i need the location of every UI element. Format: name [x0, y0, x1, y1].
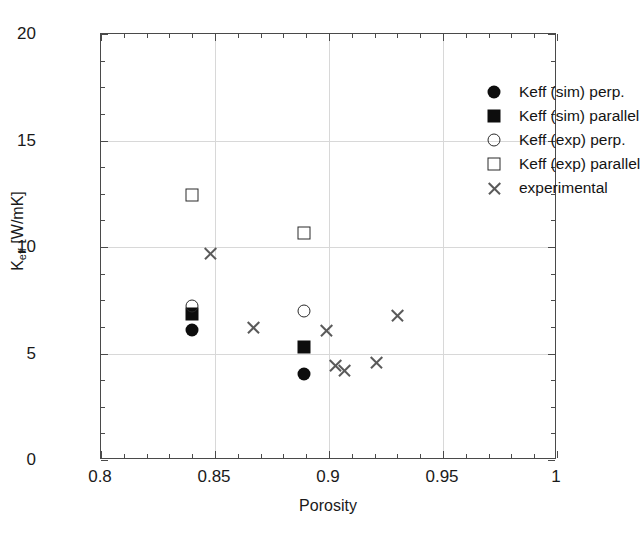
x-tick-major	[101, 451, 102, 458]
data-point-filled-square	[297, 341, 310, 354]
y-axis-title-subscript: eff	[16, 248, 28, 260]
legend-marker-filled-square-icon	[483, 105, 505, 127]
y-tick-minor	[101, 433, 105, 434]
x-tick-minor	[375, 454, 376, 458]
x-tick-major-top	[557, 34, 558, 41]
x-tick-minor	[124, 454, 125, 458]
data-point-cross	[246, 320, 261, 335]
plot-area: Keff (sim) perp.Keff (sim) parallelKeff …	[100, 33, 556, 459]
x-tick-major	[443, 451, 444, 458]
x-tick-minor-top	[466, 34, 467, 38]
x-tick-minor	[466, 454, 467, 458]
data-point-cross	[337, 363, 352, 378]
x-tick-minor	[352, 454, 353, 458]
y-tick-minor-right	[551, 407, 555, 408]
y-tick-minor	[101, 327, 105, 328]
data-point-cross	[319, 323, 334, 338]
y-tick-label: 15	[0, 132, 36, 149]
x-tick-minor	[534, 454, 535, 458]
x-tick-label: 1	[516, 468, 596, 485]
y-tick-major-right	[548, 354, 555, 355]
x-tick-minor-top	[261, 34, 262, 38]
y-tick-minor	[101, 380, 105, 381]
y-tick-major	[101, 34, 108, 35]
y-tick-major	[101, 247, 108, 248]
y-tick-minor	[101, 194, 105, 195]
x-tick-label: 0.8	[60, 468, 140, 485]
y-tick-minor	[101, 61, 105, 62]
x-tick-major	[557, 451, 558, 458]
legend-item: experimental	[483, 176, 644, 200]
x-tick-minor	[489, 454, 490, 458]
x-tick-minor-top	[192, 34, 193, 38]
y-tick-minor	[101, 220, 105, 221]
y-tick-major	[101, 354, 108, 355]
x-tick-minor-top	[397, 34, 398, 38]
x-tick-minor-top	[534, 34, 535, 38]
x-tick-major	[329, 451, 330, 458]
x-tick-minor-top	[489, 34, 490, 38]
gridline-vertical	[443, 34, 444, 458]
x-tick-minor	[306, 454, 307, 458]
data-point-open-square	[297, 227, 310, 240]
y-tick-major	[101, 460, 108, 461]
y-tick-minor-right	[551, 327, 555, 328]
gridline-vertical	[329, 34, 330, 458]
x-tick-minor-top	[420, 34, 421, 38]
x-tick-minor	[238, 454, 239, 458]
x-tick-minor	[147, 454, 148, 458]
y-tick-minor	[101, 114, 105, 115]
data-point-cross	[390, 308, 405, 323]
y-tick-minor-right	[551, 220, 555, 221]
x-tick-minor-top	[511, 34, 512, 38]
y-tick-minor	[101, 87, 105, 88]
data-point-open-circle	[297, 304, 310, 317]
y-tick-label: 5	[0, 345, 36, 362]
y-tick-minor	[101, 274, 105, 275]
data-point-filled-circle	[186, 324, 199, 337]
x-tick-label: 0.95	[402, 468, 482, 485]
y-tick-minor-right	[551, 300, 555, 301]
y-tick-label: 0	[0, 451, 36, 468]
data-point-open-square	[186, 188, 199, 201]
y-tick-minor-right	[551, 433, 555, 434]
y-tick-major	[101, 141, 108, 142]
y-tick-major-right	[548, 247, 555, 248]
gridline-horizontal	[101, 354, 555, 355]
y-tick-minor	[101, 167, 105, 168]
x-tick-minor	[192, 454, 193, 458]
x-tick-major	[215, 451, 216, 458]
y-tick-minor-right	[551, 274, 555, 275]
x-tick-major-top	[215, 34, 216, 41]
legend-item-label: Keff (exp) perp.	[519, 132, 626, 148]
legend-item: Keff (exp) perp.	[483, 128, 644, 152]
x-axis-title: Porosity	[100, 497, 556, 515]
legend-marker-cross-icon	[483, 177, 505, 199]
data-point-open-circle	[186, 299, 199, 312]
y-tick-minor	[101, 407, 105, 408]
legend-marker-filled-circle-icon	[483, 81, 505, 103]
x-tick-major-top	[443, 34, 444, 41]
y-tick-major-right	[548, 34, 555, 35]
x-tick-label: 0.9	[288, 468, 368, 485]
x-tick-minor	[283, 454, 284, 458]
chart-legend: Keff (sim) perp.Keff (sim) parallelKeff …	[483, 80, 644, 200]
x-tick-minor-top	[306, 34, 307, 38]
x-tick-minor-top	[147, 34, 148, 38]
legend-marker-open-square-icon	[483, 153, 505, 175]
x-tick-minor-top	[238, 34, 239, 38]
legend-item: Keff (exp) parallel	[483, 152, 644, 176]
y-axis-title: Keff [W/mK]	[9, 151, 27, 311]
x-tick-minor	[261, 454, 262, 458]
x-tick-minor-top	[169, 34, 170, 38]
x-tick-minor	[397, 454, 398, 458]
legend-item: Keff (sim) perp.	[483, 80, 644, 104]
legend-item-label: Keff (sim) parallel	[519, 108, 639, 124]
gridline-horizontal	[101, 247, 555, 248]
x-tick-major-top	[329, 34, 330, 41]
data-point-filled-circle	[297, 367, 310, 380]
x-tick-minor	[169, 454, 170, 458]
y-tick-major-right	[548, 460, 555, 461]
y-tick-minor	[101, 300, 105, 301]
